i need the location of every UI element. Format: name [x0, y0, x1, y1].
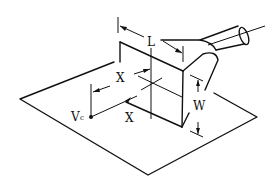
dimension-x-lower: X V c: [70, 96, 137, 125]
label-width: W: [193, 99, 206, 113]
duct: [161, 26, 265, 90]
dimension-width: W: [190, 75, 206, 137]
label-x-upper: X: [116, 71, 125, 85]
ground-plane: [20, 62, 257, 175]
label-source-sub: c: [80, 114, 84, 122]
point-source: [89, 115, 93, 119]
dimension-x-upper: X: [91, 69, 150, 118]
label-x-lower: X: [125, 111, 134, 125]
hood-diagram: L X X V c W: [0, 0, 280, 188]
label-source: V: [70, 110, 80, 124]
label-length: L: [147, 35, 155, 49]
